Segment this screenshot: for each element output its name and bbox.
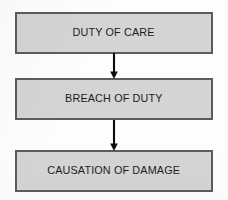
flow-node-label: DUTY OF CARE <box>73 27 155 39</box>
arrow-breach-to-causation-icon <box>109 120 119 151</box>
arrow-duty-to-breach-icon <box>109 53 119 79</box>
flow-node-causation-of-damage[interactable]: CAUSATION OF DAMAGE <box>15 150 213 192</box>
flow-node-duty-of-care[interactable]: DUTY OF CARE <box>15 12 213 54</box>
flow-node-breach-of-duty[interactable]: BREACH OF DUTY <box>15 78 213 120</box>
flowchart-canvas: DUTY OF CARE BREACH OF DUTY CAUSATION OF… <box>0 0 228 200</box>
flow-node-label: CAUSATION OF DAMAGE <box>48 165 181 177</box>
flow-node-label: BREACH OF DUTY <box>65 93 162 105</box>
